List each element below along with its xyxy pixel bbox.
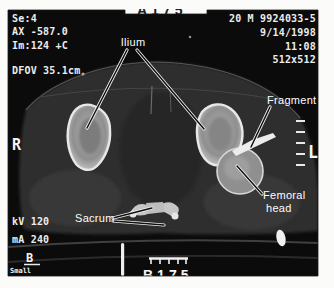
calcification-speck <box>81 72 84 75</box>
panel-sublabel-text: Small <box>10 267 31 275</box>
slice-position-text: AX -587.0 <box>12 26 68 37</box>
fragment-label: Fragment <box>267 94 316 106</box>
patient-demographics-text: 20 M 9924033-5 <box>229 13 316 24</box>
ma-text: mA 240 <box>12 234 49 245</box>
femoral-head-label-line2: head <box>266 202 292 214</box>
panel-label-text: B <box>26 251 33 265</box>
orientation-left-marker: L <box>308 142 318 162</box>
matrix-text: 512x512 <box>272 54 316 65</box>
textbook-figure-ct-pelvis: A175 <box>0 0 334 288</box>
ct-axial-pelvis-image: A175 <box>0 0 334 288</box>
kv-text: kV 120 <box>12 216 49 227</box>
series-text: Se:4 <box>12 13 37 24</box>
study-date-text: 9/14/1998 <box>260 27 316 38</box>
dfov-text: DFOV 35.1cm <box>12 65 80 76</box>
femoral-head-label-line1: Femoral <box>263 189 305 201</box>
image-number-text: Im:124 +C <box>12 40 68 51</box>
vertical-marker-line <box>121 243 124 276</box>
study-time-text: 11:08 <box>285 41 316 52</box>
ilium-label: Ilium <box>121 36 146 48</box>
left-ilium-marrow <box>208 117 232 151</box>
orientation-right-marker: R <box>12 136 22 154</box>
sacrum-label: Sacrum <box>75 212 115 224</box>
artifact-speck <box>189 36 192 39</box>
